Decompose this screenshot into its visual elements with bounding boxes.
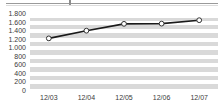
x-axis-tick-label: 12/07	[190, 93, 208, 102]
y-axis-tick-label: 400	[14, 70, 26, 78]
series-layer	[30, 14, 218, 91]
line-chart: 1.8001.6001.4001.2001.0008006004002000 1…	[0, 0, 222, 109]
x-axis-tick-label: 12/05	[115, 93, 133, 102]
y-axis-tick-label: 1.600	[8, 19, 26, 27]
y-axis-tick-label: 1.000	[8, 44, 26, 52]
x-axis-labels: 12/0312/0412/0512/0612/07	[30, 93, 218, 105]
data-point-marker	[197, 18, 202, 23]
y-axis-tick-label: 600	[14, 61, 26, 69]
data-point-marker	[46, 36, 51, 41]
data-point-marker	[159, 21, 164, 26]
clipped-top-rule-secondary	[6, 5, 218, 6]
data-point-marker	[84, 28, 89, 33]
y-axis-labels: 1.8001.6001.4001.2001.0008006004002000	[0, 10, 28, 95]
data-point-marker	[122, 21, 127, 26]
y-axis-tick-label: 1.400	[8, 27, 26, 35]
y-axis-tick-label: 1.800	[8, 10, 26, 18]
y-axis-tick-label: 0	[22, 87, 26, 95]
y-axis-tick-label: 1.200	[8, 36, 26, 44]
y-axis-tick-label: 200	[14, 78, 26, 86]
clipped-top-rule	[6, 3, 218, 4]
x-axis-tick-label: 12/03	[40, 93, 58, 102]
x-axis-tick-label: 12/04	[78, 93, 96, 102]
y-axis-tick-label: 800	[14, 53, 26, 61]
x-axis-tick-label: 12/06	[153, 93, 171, 102]
